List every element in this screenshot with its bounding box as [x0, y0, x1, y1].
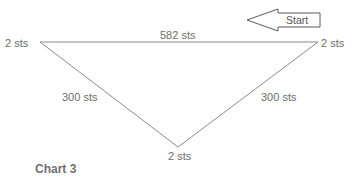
chart-title: Chart 3	[35, 162, 76, 176]
start-label: Start	[286, 14, 308, 26]
right-edge	[178, 42, 318, 147]
left-vertex-label: 2 sts	[5, 37, 28, 49]
bottom-vertex-label: 2 sts	[168, 150, 191, 162]
triangle-diagram: Start 582 sts 2 sts 2 sts 300 sts 300 st…	[0, 0, 353, 182]
right-vertex-label: 2 sts	[321, 37, 344, 49]
start-arrow-icon	[247, 9, 320, 31]
top-edge-label: 582 sts	[160, 29, 195, 41]
left-edge-label: 300 sts	[62, 91, 97, 103]
right-edge-label: 300 sts	[261, 91, 296, 103]
left-edge	[40, 42, 178, 147]
